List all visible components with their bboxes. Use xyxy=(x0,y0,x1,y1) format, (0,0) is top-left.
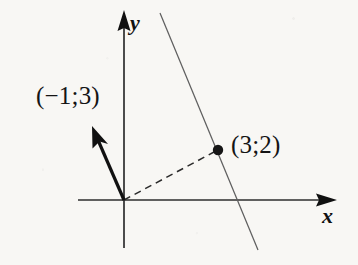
plotted-point-dot xyxy=(213,145,223,155)
figure-page: (−1;3) (3;2) y x xyxy=(0,0,358,265)
y-axis-label: y xyxy=(130,12,140,34)
dashed-position-segment xyxy=(124,152,214,200)
vector-diagram-canvas xyxy=(0,0,358,265)
vector-shaft xyxy=(98,140,124,200)
x-axis-label: x xyxy=(322,205,333,227)
point-coordinates-label: (3;2) xyxy=(231,132,281,157)
y-axis-arrowhead xyxy=(118,10,131,31)
vector-coordinates-label: (−1;3) xyxy=(36,83,100,108)
